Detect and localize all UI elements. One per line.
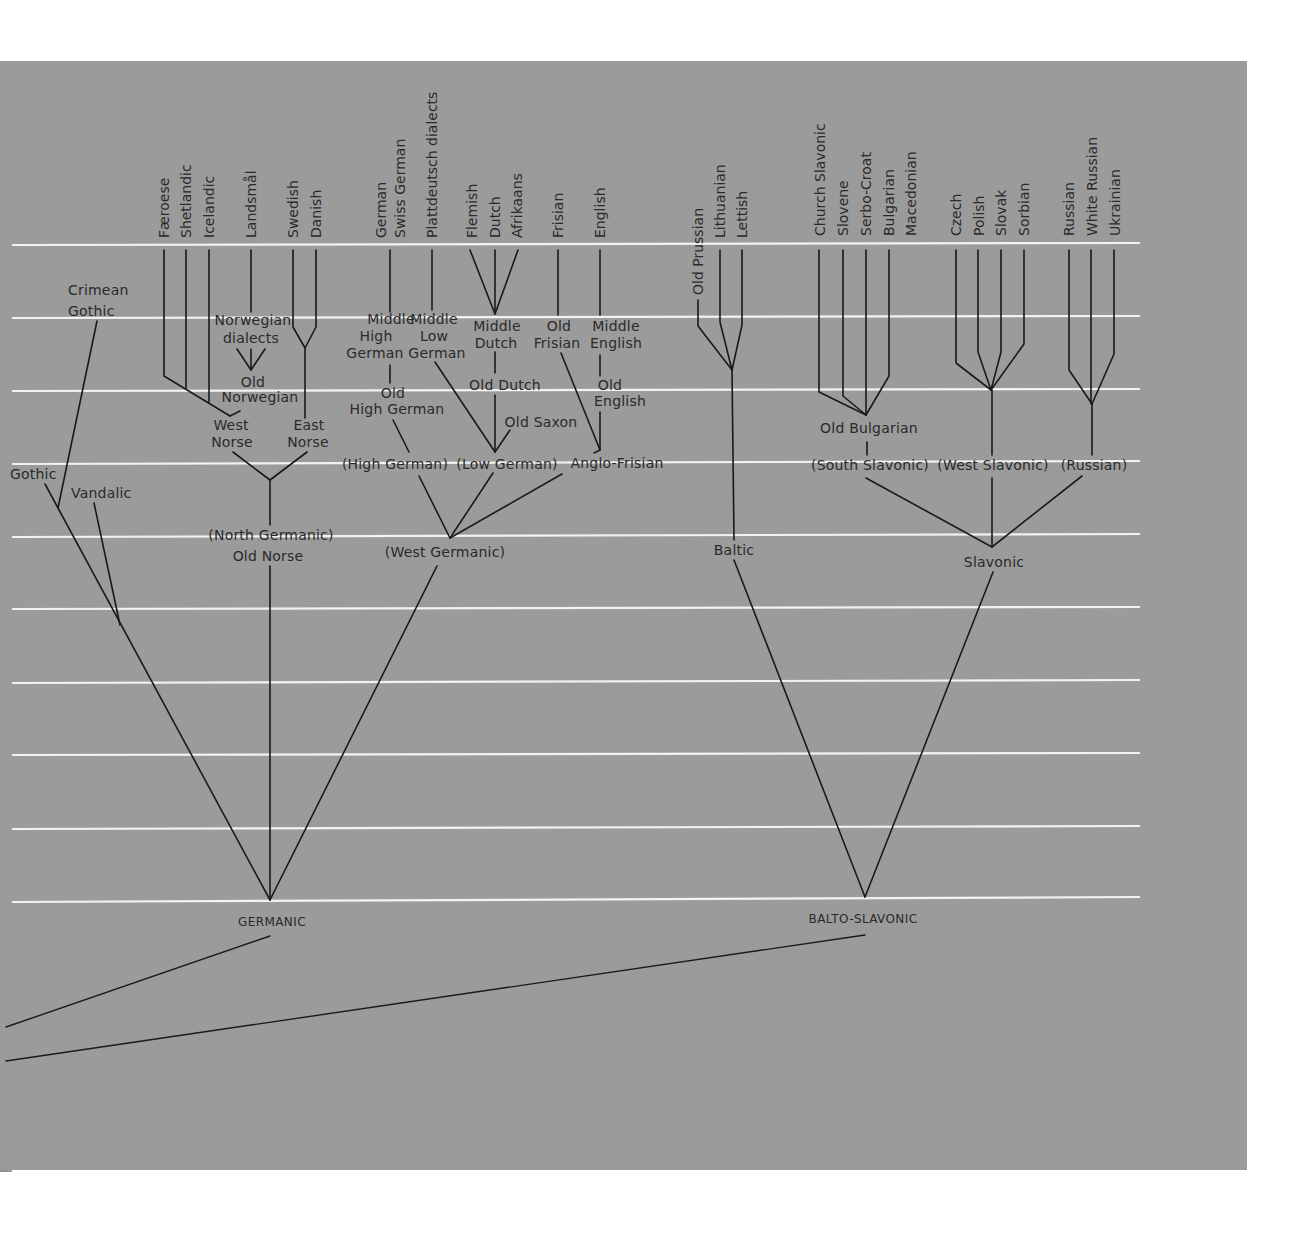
label-plattdeutsch: Plattdeutsch dialects — [424, 92, 440, 238]
label-english: English — [592, 187, 608, 238]
label-middle-dutch-1: Middle — [473, 318, 520, 334]
grid-line — [12, 753, 1140, 755]
node-labels: Crimean Gothic Gothic Vandalic Norwegian… — [10, 282, 1127, 929]
label-germanic-root: GERMANIC — [238, 915, 306, 929]
label-polish: Polish — [971, 196, 987, 236]
label-icelandic: Icelandic — [201, 176, 217, 238]
label-vandalic: Vandalic — [71, 485, 132, 501]
label-mlg-3: German — [408, 345, 465, 361]
label-slavonic: Slavonic — [964, 554, 1024, 570]
balto-slavonic-edges — [698, 250, 1114, 897]
label-dutch: Dutch — [487, 196, 503, 238]
label-mhg-3: German — [346, 345, 403, 361]
label-west-germanic: (West Germanic) — [385, 544, 505, 560]
label-old-norwegian-1: Old — [241, 374, 265, 390]
label-macedonian: Macedonian — [903, 151, 919, 236]
label-flemish: Flemish — [464, 184, 480, 238]
label-mhg-2: High — [360, 328, 393, 344]
trunk-edges — [6, 935, 865, 1061]
label-landsmal: Landsmål — [243, 170, 259, 238]
label-norwegian-dialects: dialects — [223, 330, 279, 346]
grid-line — [12, 243, 1140, 245]
grid-line — [12, 826, 1140, 829]
label-old-norwegian-2: Norwegian — [222, 389, 299, 405]
label-lithuanian: Lithuanian — [712, 164, 728, 238]
label-mlg-1: Middle — [410, 311, 457, 327]
grid-line — [12, 607, 1140, 609]
label-crimean: Crimean — [68, 282, 129, 298]
label-ukrainian: Ukrainian — [1107, 169, 1123, 236]
label-german: German — [373, 182, 389, 238]
label-czech: Czech — [948, 194, 964, 236]
label-old-english-1: Old — [598, 377, 622, 393]
label-swedish: Swedish — [285, 180, 301, 238]
label-mhg-1: Middle — [367, 311, 414, 327]
label-west-slavonic: (West Slavonic) — [937, 457, 1048, 473]
language-family-tree: Færoese Shetlandic Icelandic Landsmål Sw… — [0, 0, 1305, 1249]
label-sorbian: Sorbian — [1016, 183, 1032, 236]
label-mlg-2: Low — [420, 328, 448, 344]
grid-line — [12, 316, 1140, 318]
label-low-german: (Low German) — [456, 456, 557, 472]
label-baltic: Baltic — [714, 542, 754, 558]
label-high-german: (High German) — [342, 456, 448, 472]
label-swiss-german: Swiss German — [392, 139, 408, 238]
label-middle-english-2: English — [590, 335, 642, 351]
label-east-norse-1: East — [293, 417, 324, 433]
label-frisian: Frisian — [550, 193, 566, 238]
label-lettish: Lettish — [734, 191, 750, 238]
label-middle-english-1: Middle — [592, 318, 639, 334]
label-anglo-frisian: Anglo-Frisian — [570, 455, 663, 471]
label-old-dutch: Old Dutch — [469, 377, 541, 393]
label-old-prussian: Old Prussian — [690, 208, 706, 295]
label-middle-dutch-2: Dutch — [475, 335, 518, 351]
label-norwegian: Norwegian — [215, 312, 292, 328]
label-north-germanic: (North Germanic) — [208, 527, 333, 543]
label-south-slavonic: (South Slavonic) — [811, 457, 929, 473]
label-west-norse-2: Norse — [211, 434, 253, 450]
label-old-frisian-2: Frisian — [534, 335, 581, 351]
label-bulgarian: Bulgarian — [881, 169, 897, 236]
label-russian-group: (Russian) — [1061, 457, 1128, 473]
grid-line — [12, 897, 1140, 902]
label-old-bulgarian: Old Bulgarian — [820, 420, 918, 436]
label-russian: Russian — [1061, 182, 1077, 236]
label-old-norse: Old Norse — [233, 548, 304, 564]
label-slovak: Slovak — [993, 189, 1009, 236]
label-old-saxon: Old Saxon — [505, 414, 578, 430]
label-ohg-2: High German — [350, 401, 445, 417]
label-church-slavonic: Church Slavonic — [812, 123, 828, 236]
label-balto-slavonic-root: BALTO-SLAVONIC — [809, 912, 918, 926]
label-white-russian: White Russian — [1084, 137, 1100, 236]
label-gothic: Gothic — [10, 466, 57, 482]
label-shetlandic: Shetlandic — [178, 164, 194, 238]
label-faeroese: Færoese — [156, 178, 172, 238]
label-slovene: Slovene — [835, 180, 851, 236]
label-west-norse-1: West — [213, 417, 249, 433]
label-crimean-gothic: Gothic — [68, 303, 115, 319]
label-serbo-croat: Serbo-Croat — [858, 152, 874, 236]
grid-line — [12, 680, 1140, 683]
label-ohg-1: Old — [381, 385, 405, 401]
label-afrikaans: Afrikaans — [509, 173, 525, 238]
label-east-norse-2: Norse — [287, 434, 329, 450]
label-old-frisian-1: Old — [547, 318, 571, 334]
label-old-english-2: English — [594, 393, 646, 409]
label-danish: Danish — [308, 190, 324, 238]
